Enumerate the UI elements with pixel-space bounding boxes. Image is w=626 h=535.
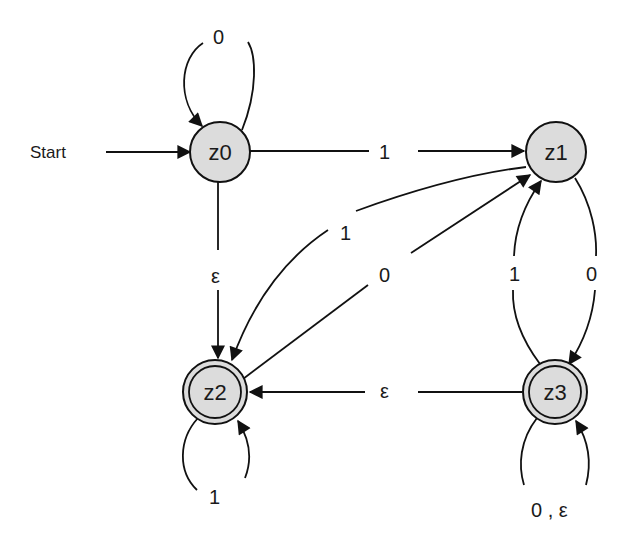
state-z3-accepting: z3 xyxy=(523,360,587,424)
transition-z1-z3: 0 xyxy=(569,178,597,364)
transition-z3-z1: 1 xyxy=(509,181,541,364)
transition-label: 0 xyxy=(586,263,597,285)
loop-z2-left xyxy=(183,418,198,490)
state-label: z3 xyxy=(543,380,566,405)
state-label: z0 xyxy=(208,140,231,165)
loop-z3-left xyxy=(521,418,537,485)
state-label: z1 xyxy=(544,140,567,165)
edge-segment xyxy=(513,290,540,364)
transition-label: 0 xyxy=(213,26,224,48)
transition-label: 0 xyxy=(379,264,390,286)
edge-segment xyxy=(514,181,541,256)
transition-z2-z1: 0 xyxy=(243,175,530,379)
transition-label: ε xyxy=(380,380,389,402)
edge-segment xyxy=(569,290,595,364)
transition-label: 1 xyxy=(209,486,220,508)
edge-segment xyxy=(232,230,328,360)
start-label: Start xyxy=(30,143,66,162)
transition-z2-z2: 1 xyxy=(183,418,249,508)
transition-z3-z3: 0 , ε xyxy=(521,418,589,521)
state-label: z2 xyxy=(203,380,226,405)
loop-z2-right xyxy=(238,421,249,478)
automaton-diagram: Start 0 1 ε 1 0 0 1 xyxy=(0,0,626,535)
start-arrow: Start xyxy=(30,143,190,162)
transition-z3-z2: ε xyxy=(250,380,522,402)
state-z1: z1 xyxy=(526,122,586,182)
loop-z3-right xyxy=(576,421,589,485)
transition-z0-z2: ε xyxy=(211,181,220,358)
state-z2-accepting: z2 xyxy=(183,360,247,424)
transition-z0-z1: 1 xyxy=(250,141,524,163)
transition-label: ε xyxy=(211,265,220,287)
loop-z0-left xyxy=(184,43,203,126)
transition-label: 1 xyxy=(509,263,520,285)
transition-label: 1 xyxy=(340,222,351,244)
edge-segment xyxy=(356,167,526,211)
transition-label: 0 , ε xyxy=(531,499,568,521)
loop-z0-right xyxy=(242,42,254,130)
state-z0: z0 xyxy=(190,122,250,182)
edge-segment xyxy=(575,178,596,256)
transition-label: 1 xyxy=(379,141,390,163)
transition-z0-z0: 0 xyxy=(184,26,254,130)
